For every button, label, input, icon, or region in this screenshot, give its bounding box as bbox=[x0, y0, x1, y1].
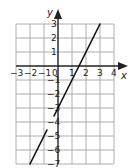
svg-text:2: 2 bbox=[83, 68, 89, 78]
x-axis-arrow-icon bbox=[118, 62, 128, 70]
svg-text:−2: −2 bbox=[47, 89, 60, 99]
svg-text:−4: −4 bbox=[47, 117, 61, 127]
y-axis-arrow-icon bbox=[54, 9, 62, 19]
coordinate-plane: x y −3 −2 −1 0 1 2 3 4 3 2 1 −1 −2 −3 −4… bbox=[0, 0, 135, 168]
svg-text:−3: −3 bbox=[10, 68, 23, 78]
svg-text:−6: −6 bbox=[47, 145, 61, 155]
svg-text:3: 3 bbox=[51, 19, 57, 29]
svg-text:3: 3 bbox=[97, 68, 103, 78]
svg-text:−5: −5 bbox=[47, 131, 60, 141]
x-axis-label: x bbox=[120, 70, 127, 81]
svg-text:−2: −2 bbox=[24, 68, 37, 78]
svg-text:−7: −7 bbox=[47, 159, 60, 168]
svg-text:−1: −1 bbox=[47, 75, 60, 85]
axes bbox=[16, 14, 124, 164]
x-tick-labels: −3 −2 −1 0 1 2 3 4 bbox=[10, 68, 117, 78]
svg-text:4: 4 bbox=[111, 68, 117, 78]
y-axis-label: y bbox=[46, 7, 54, 18]
svg-text:2: 2 bbox=[51, 33, 57, 43]
svg-text:1: 1 bbox=[51, 47, 57, 57]
